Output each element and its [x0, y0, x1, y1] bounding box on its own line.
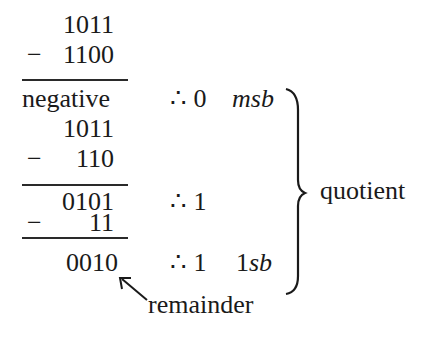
quotient-label: quotient — [320, 178, 405, 204]
remainder-label: remainder — [148, 292, 253, 318]
quotient-brace-icon — [286, 89, 305, 294]
remainder-arrow-icon — [120, 278, 147, 300]
